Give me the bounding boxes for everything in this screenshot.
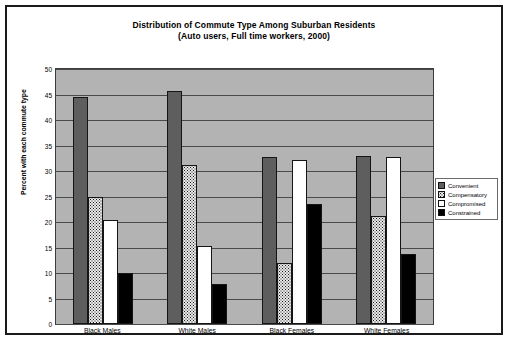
chart-subtitle: (Auto users, Full time workers, 2000) bbox=[7, 31, 501, 42]
legend-item: Convenient bbox=[438, 181, 495, 190]
y-axis-tick-label: 35 bbox=[26, 142, 52, 149]
y-axis-tick-label: 5 bbox=[26, 295, 52, 302]
chart-title-block: Distribution of Commute Type Among Subur… bbox=[7, 20, 501, 42]
bar-convenient-white-females bbox=[356, 156, 371, 324]
legend-item: Constrained bbox=[438, 208, 495, 217]
bar-compensatory-black-females bbox=[277, 263, 292, 324]
x-axis-tick-label: Black Females bbox=[245, 327, 340, 334]
chart-title: Distribution of Commute Type Among Subur… bbox=[7, 20, 501, 31]
y-axis-tick-label: 40 bbox=[26, 117, 52, 124]
bar-convenient-black-males bbox=[73, 97, 88, 324]
legend-label: Constrained bbox=[448, 210, 480, 216]
y-axis-tick-label: 45 bbox=[26, 91, 52, 98]
legend-item: Compromised bbox=[438, 199, 495, 208]
chart-frame: Distribution of Commute Type Among Subur… bbox=[5, 5, 503, 335]
y-axis-tick-label: 0 bbox=[26, 321, 52, 328]
x-axis-tick-label: White Females bbox=[339, 327, 434, 334]
bar-constrained-black-males bbox=[118, 273, 133, 324]
y-axis-tick-label: 25 bbox=[26, 193, 52, 200]
chart-legend: Convenient Compensatory Compromised Cons… bbox=[435, 178, 498, 220]
y-axis-tick-label: 50 bbox=[26, 66, 52, 73]
bar-groups bbox=[56, 69, 433, 324]
y-axis-tick-label: 10 bbox=[26, 270, 52, 277]
bar-group bbox=[150, 69, 244, 324]
bar-compromised-white-males bbox=[197, 246, 212, 324]
y-axis-tick-label: 30 bbox=[26, 168, 52, 175]
plot-area: 50454035302520151050 bbox=[55, 68, 434, 325]
bar-group bbox=[245, 69, 339, 324]
x-axis-tick-label: Black Males bbox=[55, 327, 150, 334]
x-axis-labels: Black MalesWhite MalesBlack FemalesWhite… bbox=[55, 327, 434, 334]
bar-group bbox=[56, 69, 150, 324]
x-axis-tick-label: White Males bbox=[150, 327, 245, 334]
bar-group bbox=[339, 69, 433, 324]
legend-label: Compromised bbox=[448, 201, 485, 207]
legend-swatch-compensatory-icon bbox=[438, 191, 445, 198]
legend-swatch-compromised-icon bbox=[438, 200, 445, 207]
bar-constrained-white-males bbox=[212, 284, 227, 324]
legend-label: Compensatory bbox=[448, 192, 487, 198]
legend-swatch-constrained-icon bbox=[438, 209, 445, 216]
y-axis-tick-label: 15 bbox=[26, 244, 52, 251]
bar-convenient-white-males bbox=[167, 91, 182, 324]
bar-constrained-white-females bbox=[401, 254, 416, 324]
bar-compromised-white-females bbox=[386, 157, 401, 324]
bar-convenient-black-females bbox=[262, 157, 277, 324]
bar-constrained-black-females bbox=[307, 204, 322, 324]
bar-compensatory-black-males bbox=[88, 197, 103, 325]
bar-compromised-black-females bbox=[292, 160, 307, 324]
gridline bbox=[56, 324, 433, 325]
legend-swatch-convenient-icon bbox=[438, 182, 445, 189]
bar-compromised-black-males bbox=[103, 220, 118, 324]
y-axis-tick-label: 20 bbox=[26, 219, 52, 226]
bar-compensatory-white-males bbox=[182, 165, 197, 324]
legend-item: Compensatory bbox=[438, 190, 495, 199]
bar-compensatory-white-females bbox=[371, 216, 386, 324]
legend-label: Convenient bbox=[448, 183, 478, 189]
